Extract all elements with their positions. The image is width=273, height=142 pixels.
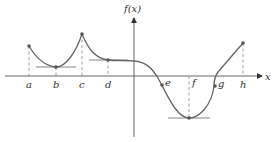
point-e	[160, 83, 164, 87]
point-a	[27, 44, 31, 48]
point-c	[80, 32, 84, 36]
x-axis-label: x	[265, 71, 271, 82]
label-c: c	[79, 79, 85, 90]
function-graph: x f(x) a b c d e f g h	[0, 0, 273, 142]
label-b: b	[53, 79, 59, 90]
point-g	[213, 84, 217, 88]
label-a: a	[26, 79, 32, 90]
label-e: e	[165, 77, 171, 88]
point-f	[187, 116, 191, 120]
point-b	[54, 65, 58, 69]
y-axis-label: f(x)	[123, 3, 141, 14]
label-d: d	[105, 79, 111, 90]
point-h	[241, 41, 245, 45]
label-f: f	[191, 77, 198, 88]
label-g: g	[218, 78, 224, 89]
label-h: h	[240, 79, 246, 90]
point-d	[106, 58, 110, 62]
